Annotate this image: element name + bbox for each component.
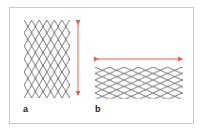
panel-a	[24, 20, 78, 98]
panel-a-label: a	[23, 104, 28, 114]
vertical-mesh	[24, 20, 70, 98]
horizontal-mesh	[95, 67, 183, 99]
panel-b-label: b	[95, 104, 101, 114]
diagram-canvas	[0, 0, 205, 134]
panel-b	[95, 59, 183, 99]
